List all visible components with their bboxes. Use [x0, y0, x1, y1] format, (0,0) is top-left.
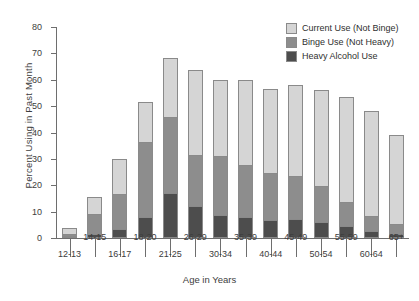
bar-segment — [213, 215, 228, 238]
x-tick-label: 35-39 — [234, 232, 257, 242]
y-tick-label: 30 — [32, 155, 42, 164]
y-tick: 80 — [51, 27, 56, 28]
y-tick: 70 — [51, 53, 56, 54]
legend-swatch-icon — [286, 51, 297, 62]
bar-segment — [112, 159, 127, 195]
x-tick-label: 55-59 — [335, 232, 358, 242]
x-tick-label: 26-29 — [184, 232, 207, 242]
y-tick-label: 60 — [32, 76, 42, 85]
y-tick: 30 — [51, 159, 56, 160]
x-tick-label: 21-25 — [159, 249, 182, 259]
bar-segment — [314, 90, 329, 186]
bar-60-64 — [364, 111, 379, 238]
bar-segment — [314, 186, 329, 222]
bar-segment — [238, 80, 253, 166]
bar-segment — [213, 80, 228, 156]
bar-12-13 — [62, 228, 77, 238]
y-tick-label: 80 — [32, 23, 42, 32]
y-tick: 10 — [51, 212, 56, 213]
y-tick: 50 — [51, 106, 56, 107]
bar-segment — [112, 229, 127, 238]
bar-45-49 — [288, 85, 303, 238]
legend-label: Binge Use (Not Heavy) — [302, 38, 394, 47]
stacked-bar-chart: Percent Using in Past Month 010203040506… — [0, 0, 419, 301]
legend-item: Heavy Alcohol Use — [286, 50, 399, 63]
y-tick-label: 70 — [32, 49, 42, 58]
x-tick-label: 14-15 — [83, 232, 106, 242]
bar-segment — [288, 85, 303, 176]
y-tick: 60 — [51, 80, 56, 81]
bar-segment — [339, 202, 354, 226]
x-tick-label: 60-64 — [360, 249, 383, 259]
bar-segment — [238, 165, 253, 217]
bar-segment — [364, 231, 379, 238]
legend-label: Current Use (Not Binge) — [302, 24, 399, 33]
x-tick-label: 45-49 — [284, 232, 307, 242]
y-tick: 20 — [51, 185, 56, 186]
legend-swatch-icon — [286, 37, 297, 48]
legend-item: Current Use (Not Binge) — [286, 22, 399, 35]
bar-segment — [288, 176, 303, 219]
y-tick-label: 0 — [37, 234, 42, 243]
y-tick-label: 50 — [32, 102, 42, 111]
x-tick-label: 50-54 — [309, 249, 332, 259]
bar-segment — [163, 117, 178, 193]
bar-segment — [138, 142, 153, 217]
bar-40-44 — [263, 89, 278, 238]
legend-swatch-icon — [286, 23, 297, 34]
y-tick-label: 10 — [32, 208, 42, 217]
bar-segment — [213, 156, 228, 215]
bar-35-39 — [238, 80, 253, 238]
bar-30-34 — [213, 80, 228, 238]
bar-segment — [188, 70, 203, 155]
bar-26-29 — [188, 70, 203, 238]
bar-segment — [112, 194, 127, 229]
x-tick-label: 40-44 — [259, 249, 282, 259]
bar-segment — [163, 193, 178, 238]
legend-item: Binge Use (Not Heavy) — [286, 36, 399, 49]
x-tick-label: 30-34 — [209, 249, 232, 259]
bar-segment — [263, 220, 278, 238]
bar-segment — [364, 216, 379, 231]
y-tick: 40 — [51, 133, 56, 134]
bar-segment — [87, 197, 102, 214]
bar-segment — [138, 102, 153, 142]
chart-legend: Current Use (Not Binge)Binge Use (Not He… — [286, 22, 399, 64]
bar-segment — [188, 155, 203, 205]
y-tick-label: 20 — [32, 181, 42, 190]
bar-segment — [263, 173, 278, 219]
x-tick-label: 65+ — [389, 232, 404, 242]
bar-segment — [263, 89, 278, 173]
bar-segment — [364, 111, 379, 215]
legend-label: Heavy Alcohol Use — [302, 52, 378, 61]
y-tick-label: 40 — [32, 129, 42, 138]
bar-55-59 — [339, 97, 354, 238]
bar-18-20 — [138, 102, 153, 238]
bar-segment — [163, 58, 178, 117]
x-tick-label: 16-17 — [108, 249, 131, 259]
bar-segment — [314, 222, 329, 238]
bar-50-54 — [314, 90, 329, 238]
bar-segment — [389, 135, 404, 224]
x-axis-title: Age in Years — [0, 274, 419, 285]
x-tick-label: 18-20 — [133, 232, 156, 242]
bar-21-25 — [163, 58, 178, 238]
bar-segment — [339, 97, 354, 202]
bar-16-17 — [112, 159, 127, 238]
x-tick-label: 12-13 — [58, 249, 81, 259]
y-tick: 0 — [51, 238, 56, 239]
bar-65+ — [389, 135, 404, 238]
